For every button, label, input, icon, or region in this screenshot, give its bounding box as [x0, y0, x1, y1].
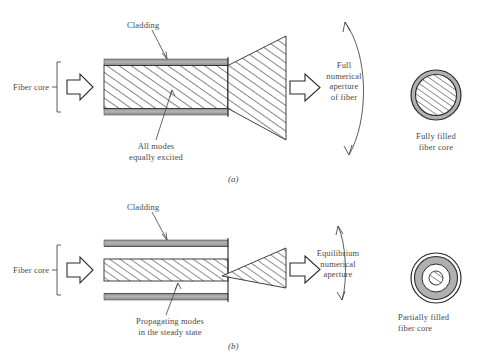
cross-section-core-a [416, 75, 457, 116]
aperture-arc-head-bottom-a [344, 145, 352, 155]
fiber-core-hatched-a [104, 66, 228, 109]
fiber-modal-distribution-figure: Fiber core Cladding All modes equally ex… [0, 0, 487, 361]
fully-filled-core-label-a: Fully filled fiber core [400, 131, 472, 152]
panel-b-graphics [52, 212, 461, 315]
cladding-leader-b [152, 212, 167, 240]
figure-vector-layer [0, 0, 487, 361]
fiber-core-bracket-b [52, 245, 61, 295]
cladding-leader-a [152, 30, 167, 59]
cross-section-core-b [429, 271, 443, 285]
cladding-leader-head-a [162, 52, 167, 60]
fiber-core-bracket-a [52, 62, 61, 112]
panel-caption-b: (b) [228, 341, 239, 351]
input-arrow-b [67, 257, 93, 283]
steady-state-mode-strip-b [104, 259, 228, 281]
cladding-label-b: Cladding [127, 202, 159, 213]
cladding-band-bottom-b [104, 294, 228, 301]
partially-filled-core-label-b: Partially filled fiber core [398, 312, 449, 333]
cladding-band-top-a [104, 59, 228, 66]
all-modes-label-a: All modes equally excited [110, 141, 202, 162]
fiber-core-label-b: Fiber core [13, 265, 49, 276]
panel-caption-a: (a) [228, 174, 239, 184]
cladding-leader-head-b [162, 233, 167, 241]
input-arrow-a [67, 74, 93, 100]
modes-leader-head-b [175, 283, 181, 290]
propagating-modes-label-b: Propagating modes in the steady state [110, 316, 230, 337]
equilibrium-aperture-label-b: Equilibrium numerical aperture [304, 248, 372, 280]
full-numerical-aperture-label-a: Full numerical aperture of fiber [316, 60, 372, 102]
cladding-band-top-b [104, 240, 228, 247]
cladding-label-a: Cladding [127, 20, 159, 31]
fiber-core-label-a: Fiber core [13, 82, 49, 93]
